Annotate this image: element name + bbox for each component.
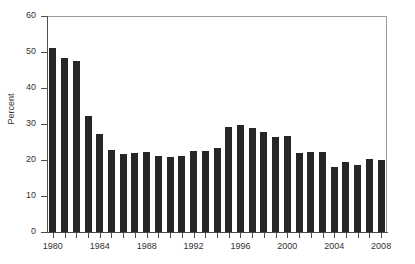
bar-1982 <box>73 61 80 232</box>
x-tick-label-1992: 1992 <box>174 241 214 251</box>
bar-1981 <box>61 58 68 232</box>
x-tick-1981 <box>65 233 66 238</box>
x-tick-label-1980: 1980 <box>33 241 73 251</box>
bar-1990 <box>167 157 174 232</box>
bar-1983 <box>85 116 92 232</box>
bar-2008 <box>378 160 385 232</box>
y-tick-0 <box>41 232 47 233</box>
x-tick-1991 <box>182 233 183 238</box>
x-tick-2001 <box>299 233 300 238</box>
bar-chart: Percent 0102030405060 198019841988199219… <box>0 0 415 264</box>
bar-1998 <box>260 132 267 232</box>
x-tick-2002 <box>311 233 312 238</box>
x-tick-1985 <box>111 233 112 238</box>
x-tick-label-1984: 1984 <box>80 241 120 251</box>
x-tick-2005 <box>346 233 347 238</box>
bar-1989 <box>155 156 162 232</box>
bar-1985 <box>108 150 115 232</box>
bar-1996 <box>237 125 244 232</box>
x-tick-2004 <box>334 233 335 238</box>
x-tick-label-1996: 1996 <box>220 241 260 251</box>
bar-2001 <box>296 153 303 232</box>
x-tick-1993 <box>205 233 206 238</box>
x-tick-2007 <box>369 233 370 238</box>
x-tick-1980 <box>53 233 54 238</box>
bar-1988 <box>143 152 150 232</box>
bar-2002 <box>307 152 314 232</box>
bar-1995 <box>225 127 232 232</box>
x-tick-1994 <box>217 233 218 238</box>
y-tick-label-10: 10 <box>2 191 36 200</box>
bar-2005 <box>342 162 349 232</box>
bar-2004 <box>331 167 338 232</box>
x-tick-2008 <box>381 233 382 238</box>
y-tick-label-60: 60 <box>2 11 36 20</box>
x-tick-2000 <box>287 233 288 238</box>
bar-1992 <box>190 151 197 232</box>
bar-1991 <box>178 156 185 232</box>
x-tick-2003 <box>323 233 324 238</box>
bar-1997 <box>249 128 256 232</box>
bar-1987 <box>131 153 138 232</box>
x-tick-1982 <box>76 233 77 238</box>
bar-1994 <box>214 148 221 232</box>
x-tick-1998 <box>264 233 265 238</box>
x-tick-1995 <box>229 233 230 238</box>
x-tick-1987 <box>135 233 136 238</box>
x-tick-1989 <box>158 233 159 238</box>
x-tick-label-2000: 2000 <box>267 241 307 251</box>
x-tick-1986 <box>123 233 124 238</box>
x-tick-1990 <box>170 233 171 238</box>
bar-2000 <box>284 136 291 232</box>
x-tick-1984 <box>100 233 101 238</box>
x-tick-1999 <box>276 233 277 238</box>
bar-1999 <box>272 137 279 232</box>
bar-1980 <box>49 48 56 232</box>
x-tick-2006 <box>358 233 359 238</box>
x-tick-label-1988: 1988 <box>127 241 167 251</box>
bar-series <box>47 16 387 232</box>
bar-2007 <box>366 159 373 232</box>
x-tick-1996 <box>240 233 241 238</box>
bar-1986 <box>120 154 127 232</box>
y-tick-label-0: 0 <box>2 227 36 236</box>
x-tick-1997 <box>252 233 253 238</box>
bar-1993 <box>202 151 209 232</box>
bar-2003 <box>319 152 326 232</box>
x-tick-label-2004: 2004 <box>314 241 354 251</box>
x-tick-label-2008: 2008 <box>361 241 401 251</box>
x-tick-1988 <box>147 233 148 238</box>
x-tick-1992 <box>194 233 195 238</box>
y-tick-label-20: 20 <box>2 155 36 164</box>
bar-2006 <box>354 165 361 232</box>
y-tick-label-40: 40 <box>2 83 36 92</box>
bar-1984 <box>96 134 103 232</box>
x-tick-1983 <box>88 233 89 238</box>
y-tick-label-50: 50 <box>2 47 36 56</box>
y-tick-label-30: 30 <box>2 119 36 128</box>
